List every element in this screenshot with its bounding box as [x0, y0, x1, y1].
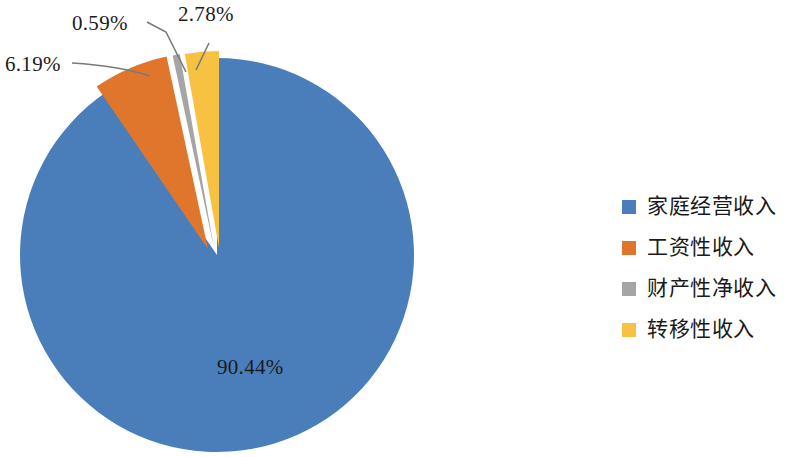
legend-label: 家庭经营收入 [647, 196, 776, 217]
legend-label: 转移性收入 [647, 319, 755, 340]
legend-item-transfer-income[interactable]: 转移性收入 [622, 309, 790, 350]
legend-swatch-icon [622, 282, 636, 296]
legend-swatch-icon [622, 241, 636, 255]
legend-item-property-net-income[interactable]: 财产性净收入 [622, 268, 790, 309]
legend: 家庭经营收入 工资性收入 财产性净收入 转移性收入 [622, 186, 790, 350]
legend-swatch-icon [622, 323, 636, 337]
legend-label: 工资性收入 [647, 237, 755, 258]
legend-swatch-icon [622, 200, 636, 214]
legend-item-household-business[interactable]: 家庭经营收入 [622, 186, 790, 227]
pie-label-transfer-income: 2.78% [178, 2, 234, 27]
pie-label-household-business: 90.44% [217, 355, 284, 380]
legend-item-wage-income[interactable]: 工资性收入 [622, 227, 790, 268]
pie-label-wage-income: 6.19% [5, 52, 61, 77]
pie-chart-container: 6.19% 0.59% 2.78% 90.44% 家庭经营收入 工资性收入 财产… [0, 0, 791, 457]
legend-label: 财产性净收入 [647, 278, 776, 299]
pie-label-property-net-income: 0.59% [72, 11, 128, 36]
